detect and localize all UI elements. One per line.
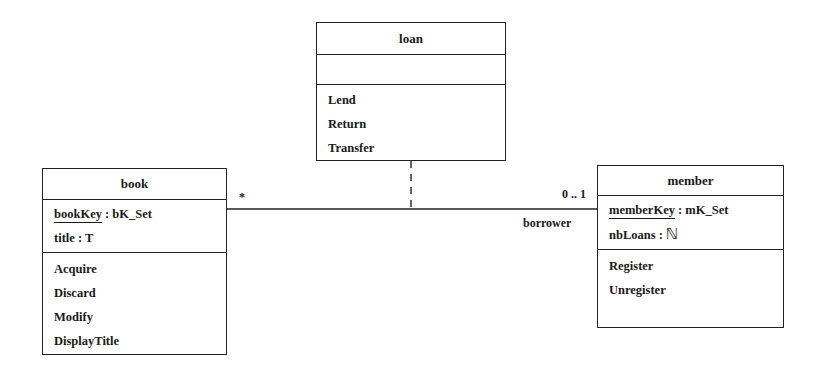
- operation-displaytitle: DisplayTitle: [54, 329, 226, 353]
- class-book[interactable]: book bookKey : bK_Set title : T Acquire …: [42, 168, 227, 355]
- book-multiplicity: *: [239, 190, 245, 205]
- class-loan[interactable]: loan Lend Return Transfer: [316, 22, 506, 161]
- operation-return: Return: [328, 112, 505, 136]
- operation-modify: Modify: [54, 305, 226, 329]
- class-member-name: member: [598, 166, 783, 196]
- operation-discard: Discard: [54, 281, 226, 305]
- attribute-memberkey: memberKey : mK_Set: [609, 198, 783, 222]
- class-book-attributes: bookKey : bK_Set title : T: [43, 200, 226, 253]
- attribute-title: title : T: [54, 226, 226, 250]
- attribute-bookkey-name: bookKey: [54, 207, 102, 221]
- class-loan-operations: Lend Return Transfer: [317, 85, 505, 160]
- attribute-memberkey-type: : mK_Set: [678, 203, 728, 217]
- class-book-operations: Acquire Discard Modify DisplayTitle: [43, 253, 226, 353]
- attribute-memberkey-name: memberKey: [609, 203, 675, 217]
- attribute-bookkey: bookKey : bK_Set: [54, 202, 226, 226]
- class-member-operations: Register Unregister: [598, 250, 783, 302]
- attribute-nbloans-name: nbLoans :: [609, 228, 663, 242]
- class-member-attributes: memberKey : mK_Set nbLoans : ℕ: [598, 196, 783, 250]
- member-role-label: borrower: [523, 216, 571, 231]
- class-loan-name: loan: [317, 23, 505, 55]
- operation-lend: Lend: [328, 88, 505, 112]
- class-loan-attributes: [317, 55, 505, 85]
- attribute-nbloans: nbLoans : ℕ: [609, 222, 783, 247]
- class-book-name: book: [43, 169, 226, 200]
- member-multiplicity: 0 .. 1: [562, 187, 586, 202]
- class-member[interactable]: member memberKey : mK_Set nbLoans : ℕ Re…: [597, 165, 784, 328]
- attribute-bookkey-type: : bK_Set: [105, 207, 152, 221]
- operation-unregister: Unregister: [609, 278, 783, 302]
- operation-register: Register: [609, 254, 783, 278]
- natural-numbers-symbol: ℕ: [666, 225, 678, 243]
- operation-acquire: Acquire: [54, 257, 226, 281]
- operation-transfer: Transfer: [328, 136, 505, 160]
